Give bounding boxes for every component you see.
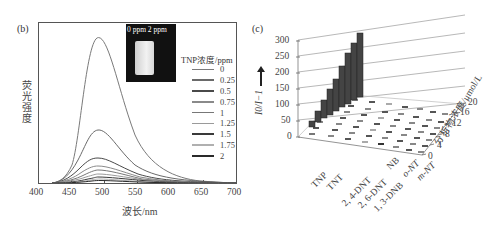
tnp-bars — [309, 33, 363, 127]
legend-item: 0.5 — [192, 86, 235, 97]
legend-swatch — [192, 133, 214, 135]
panel-c-label: (c) — [252, 23, 263, 34]
legend-swatch — [192, 101, 214, 103]
z-tick-label: 0 — [287, 131, 292, 141]
z-tick-label: 150 — [275, 83, 289, 93]
z-tick-label: 50 — [281, 115, 291, 125]
x-tick-label: 550 — [128, 187, 142, 197]
legend-item: 1.25 — [192, 118, 235, 129]
z-tick-label: 300 — [275, 35, 289, 45]
legend-item: 1.75 — [192, 140, 235, 151]
z-tick-label: 250 — [275, 51, 289, 61]
y-axis-title: 荧光强度 — [18, 80, 33, 124]
x-tick-label: 650 — [194, 187, 208, 197]
legend-item: 2 — [192, 150, 235, 161]
x-tick-label: 600 — [161, 187, 175, 197]
arrow-up-icon — [260, 70, 262, 86]
legend-swatch — [192, 69, 214, 71]
legend-swatch — [192, 155, 214, 157]
legend-item: 1 — [192, 107, 235, 118]
legend-item: 0.25 — [192, 75, 235, 86]
z-tick-label: 100 — [275, 99, 289, 109]
x-tick-label: 500 — [95, 187, 109, 197]
legend-swatch — [192, 112, 214, 114]
x-tick-label: 400 — [29, 187, 43, 197]
z-tick-label: 200 — [275, 67, 289, 77]
x-tick-label: 450 — [62, 187, 76, 197]
x-axis-title: 波长/nm — [122, 203, 158, 218]
legend-swatch — [192, 90, 214, 92]
legend: 0 0.25 0.5 0.75 1 1.25 1.5 1.75 2 — [192, 64, 235, 161]
legend-swatch — [192, 123, 214, 125]
legend-item: 0 — [192, 64, 235, 75]
x-tick-label: 700 — [227, 187, 241, 197]
legend-item: 0.75 — [192, 96, 235, 107]
legend-swatch — [192, 144, 214, 146]
arrow-head-icon — [257, 66, 265, 72]
z-axis-title: I0/I−1 — [254, 90, 264, 115]
legend-swatch — [192, 79, 214, 81]
inset-label: 0 ppm 2 ppm — [127, 25, 167, 34]
inset-photo: 0 ppm 2 ppm — [126, 24, 176, 82]
legend-item: 1.5 — [192, 129, 235, 140]
vial-icon — [135, 41, 154, 75]
z-axis-title-group: I0/I−1 — [254, 70, 268, 130]
